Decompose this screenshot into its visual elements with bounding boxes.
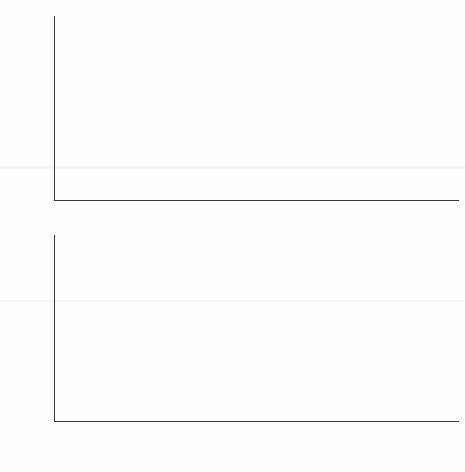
fig6-y-axis — [54, 16, 55, 201]
figure-plate — [0, 0, 465, 472]
fig6-x-axis — [54, 200, 459, 201]
scan-artifact — [0, 300, 465, 302]
fig7-y-axis — [54, 235, 55, 422]
fig7-x-axis — [54, 421, 459, 422]
chart-fig6 — [0, 0, 465, 225]
scan-artifact — [0, 166, 465, 169]
chart-fig7 — [0, 225, 465, 472]
